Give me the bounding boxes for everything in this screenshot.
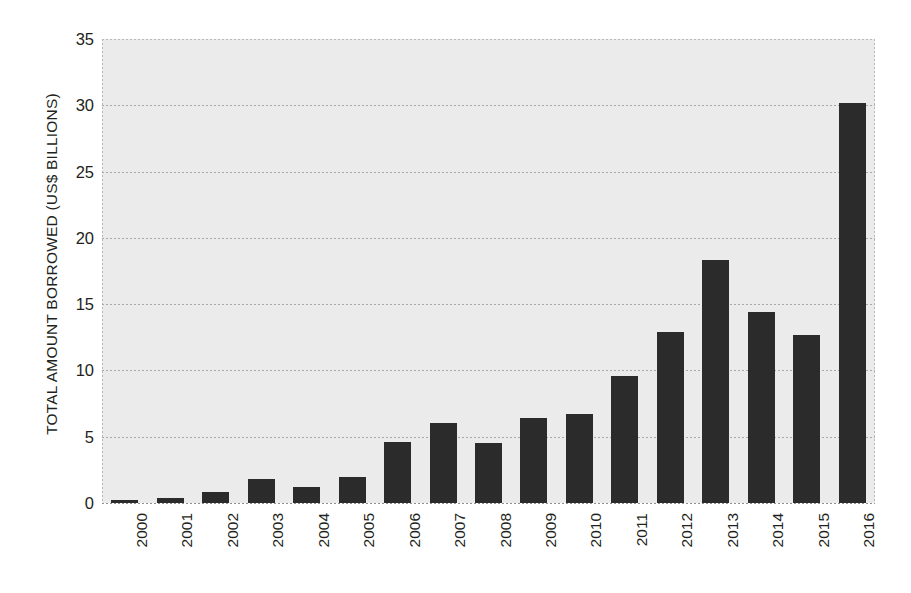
bar [475,443,502,503]
bar [657,332,684,503]
bar [248,479,275,503]
x-tick-label: 2012 [678,513,696,583]
bar [339,477,366,504]
bar [748,312,775,503]
bar [566,414,593,503]
x-tick-label: 2011 [633,513,651,583]
x-tick-label: 2001 [178,513,196,583]
bar-chart-figure: TOTAL AMOUNT BORROWED (US$ BILLIONS) 051… [0,0,911,593]
y-tick-label: 5 [50,427,94,446]
x-tick-label: 2013 [724,513,742,583]
y-tick-label: 35 [50,30,94,49]
bar [293,487,320,503]
x-tick-label: 2000 [133,513,151,583]
y-axis-tick-labels: 05101520253035 [50,0,94,593]
bar [793,335,820,503]
x-tick-label: 2016 [860,513,878,583]
bar [430,423,457,503]
x-axis-tick-labels: 2000200120022003200420052006200720082009… [102,503,875,593]
y-tick-label: 15 [50,295,94,314]
x-tick-label: 2006 [406,513,424,583]
x-tick-label: 2007 [451,513,469,583]
y-tick-label: 10 [50,361,94,380]
bar [384,442,411,503]
x-tick-label: 2010 [587,513,605,583]
x-tick-label: 2009 [542,513,560,583]
x-tick-label: 2002 [224,513,242,583]
bar [611,376,638,503]
bar [202,492,229,503]
plot-area [102,39,875,503]
bar [702,260,729,503]
bar [839,103,866,503]
x-tick-label: 2005 [360,513,378,583]
x-tick-label: 2014 [769,513,787,583]
x-tick-label: 2003 [269,513,287,583]
y-tick-label: 20 [50,228,94,247]
y-tick-label: 0 [50,494,94,513]
x-tick-label: 2008 [497,513,515,583]
bars-series [102,39,875,503]
x-tick-label: 2004 [315,513,333,583]
y-tick-label: 25 [50,162,94,181]
y-tick-label: 30 [50,96,94,115]
x-tick-label: 2015 [815,513,833,583]
bar [520,418,547,503]
